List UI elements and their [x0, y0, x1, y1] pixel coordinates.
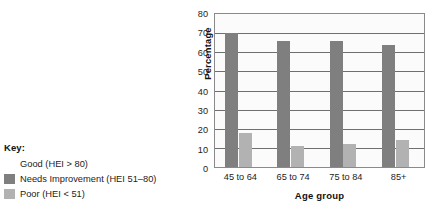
y-tick-label: 80 — [184, 10, 208, 19]
bar — [239, 133, 252, 167]
y-tick-label: 40 — [184, 87, 208, 96]
bar — [343, 144, 356, 167]
bar-group — [372, 14, 424, 167]
y-tick-label: 70 — [184, 29, 208, 38]
y-tick-label: 0 — [184, 165, 208, 174]
legend-title: Key: — [4, 143, 194, 153]
legend-swatch-icon — [4, 174, 15, 184]
legend-item: Needs Improvement (HEI 51–80) — [4, 172, 194, 187]
y-tick-label: 30 — [184, 106, 208, 115]
x-tick-label: 65 to 74 — [267, 172, 320, 183]
plot-area — [214, 13, 425, 168]
legend-item-label: Needs Improvement (HEI 51–80) — [20, 174, 156, 185]
x-tick-label: 85+ — [372, 172, 425, 183]
y-tick-label: 20 — [184, 126, 208, 135]
y-axis-tick-labels: 01020304050607080 — [184, 13, 208, 168]
legend-item-label: Good (HEI > 80) — [20, 159, 88, 170]
x-tick-label: 45 to 64 — [214, 172, 267, 183]
bar-chart: Percentage 01020304050607080 45 to 6465 … — [176, 6, 432, 206]
legend-item-label: Poor (HEI < 51) — [20, 189, 85, 200]
y-tick-label: 10 — [184, 145, 208, 154]
bar-groups — [215, 14, 424, 167]
legend-item: Poor (HEI < 51) — [4, 187, 194, 202]
y-tick-label: 60 — [184, 48, 208, 57]
x-tick-label: 75 to 84 — [320, 172, 373, 183]
bar — [291, 146, 304, 167]
bar-group — [215, 14, 267, 167]
bar — [277, 41, 290, 167]
x-axis-title: Age group — [214, 190, 425, 201]
legend-item-list: Good (HEI > 80)Needs Improvement (HEI 51… — [4, 157, 194, 202]
legend-item: Good (HEI > 80) — [4, 157, 194, 172]
bar — [382, 45, 395, 167]
y-tick-label: 50 — [184, 68, 208, 77]
bar-group — [267, 14, 319, 167]
chart-legend: Key: Good (HEI > 80)Needs Improvement (H… — [4, 143, 194, 202]
bar-group — [320, 14, 372, 167]
bar — [225, 33, 238, 167]
legend-swatch-icon — [4, 189, 15, 199]
legend-swatch-icon — [4, 159, 15, 169]
x-axis-tick-labels: 45 to 6465 to 7475 to 8485+ — [214, 172, 425, 183]
bar — [330, 41, 343, 167]
bar — [396, 140, 409, 167]
chart-page: Key: Good (HEI > 80)Needs Improvement (H… — [0, 0, 435, 213]
